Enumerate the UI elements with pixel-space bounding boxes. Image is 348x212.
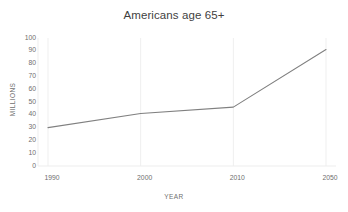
y-axis-tick-label: 0: [14, 163, 36, 170]
y-axis-tick-label: 80: [14, 60, 36, 67]
y-axis-tick-label: 70: [14, 73, 36, 80]
x-axis-tick-label: 2050: [322, 175, 337, 182]
chart-title: Americans age 65+: [0, 9, 348, 21]
gridlines: [48, 38, 326, 166]
y-axis-tick-label: 20: [14, 137, 36, 144]
y-axis-tick-label: 100: [14, 35, 36, 42]
y-axis-tick-label: 60: [14, 86, 36, 93]
x-axis-tick-labels: 1990200020102050: [0, 175, 348, 187]
x-axis-tick-label: 2010: [230, 175, 245, 182]
x-axis-tick-label: 2000: [137, 175, 152, 182]
y-axis-tick-label: 30: [14, 124, 36, 131]
x-axis-tick-label: 1990: [44, 175, 59, 182]
axis-lines: [38, 38, 336, 166]
y-axis-tick-label: 50: [14, 99, 36, 106]
data-line-series-0: [48, 50, 326, 128]
plot-svg: [38, 38, 336, 166]
y-axis-tick-label: 90: [14, 47, 36, 54]
plot-area: [38, 38, 336, 166]
y-axis-tick-label: 10: [14, 150, 36, 157]
x-axis-title: YEAR: [0, 193, 348, 200]
chart-container: Americans age 65+ MILLIONS 1009080706050…: [0, 0, 348, 212]
y-axis-tick-labels: 1009080706050403020100: [14, 32, 36, 172]
y-axis-tick-label: 40: [14, 111, 36, 118]
